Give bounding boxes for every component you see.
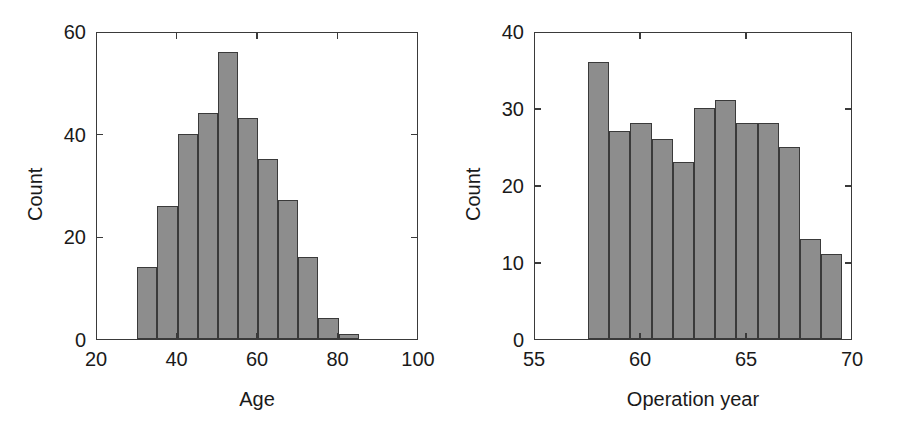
age-plot-area — [96, 32, 418, 340]
histogram-bar — [758, 123, 779, 339]
y-tick-mark — [534, 108, 541, 109]
age-bars — [97, 33, 417, 339]
histogram-bar — [779, 147, 800, 340]
y-tick-mark-right — [411, 134, 418, 135]
histogram-figure: 0204060 20406080100 Age Count 010203040 … — [0, 0, 898, 426]
histogram-bar — [630, 123, 651, 339]
x-tick-label: 60 — [246, 348, 268, 371]
x-tick-mark-top — [745, 32, 746, 39]
x-tick-label: 40 — [165, 348, 187, 371]
x-tick-label: 100 — [401, 348, 434, 371]
y-tick-mark — [96, 134, 103, 135]
histogram-bar — [736, 123, 757, 339]
age-y-axis-title: Count — [24, 168, 47, 221]
histogram-bar — [588, 62, 609, 339]
histogram-bar — [157, 206, 177, 339]
x-tick-mark-top — [256, 32, 257, 39]
operation-year-x-axis-title: Operation year — [534, 388, 852, 411]
histogram-bar — [609, 131, 630, 339]
y-tick-label: 30 — [474, 98, 524, 121]
histogram-bar — [298, 257, 318, 339]
x-tick-label: 70 — [841, 348, 863, 371]
x-tick-mark-top — [337, 32, 338, 39]
y-tick-label: 60 — [36, 21, 86, 44]
y-tick-label: 0 — [36, 329, 86, 352]
histogram-bar — [715, 100, 736, 339]
x-tick-label: 60 — [629, 348, 651, 371]
histogram-bar — [178, 134, 198, 339]
y-tick-label: 0 — [474, 329, 524, 352]
histogram-bar — [198, 113, 218, 339]
x-tick-mark — [256, 333, 257, 340]
y-tick-mark-right — [411, 237, 418, 238]
x-tick-mark — [176, 333, 177, 340]
histogram-bar — [218, 52, 238, 339]
x-tick-label: 65 — [735, 348, 757, 371]
x-tick-mark-top — [176, 32, 177, 39]
x-tick-mark-top — [639, 32, 640, 39]
y-tick-mark-right — [845, 185, 852, 186]
y-tick-mark-right — [845, 262, 852, 263]
histogram-bar — [821, 254, 842, 339]
y-tick-label: 10 — [474, 252, 524, 275]
operation-year-plot-area — [534, 32, 852, 340]
age-histogram-panel: 0204060 20406080100 Age Count — [0, 0, 449, 426]
y-tick-label: 20 — [36, 226, 86, 249]
histogram-bar — [673, 162, 694, 339]
x-tick-mark — [337, 333, 338, 340]
histogram-bar — [694, 108, 715, 339]
age-x-axis-title: Age — [96, 388, 418, 411]
histogram-bar — [652, 139, 673, 339]
y-tick-mark — [534, 185, 541, 186]
y-tick-mark — [96, 237, 103, 238]
histogram-bar — [137, 267, 157, 339]
x-tick-label: 80 — [326, 348, 348, 371]
operation-year-y-axis-title: Count — [462, 168, 485, 221]
histogram-bar — [339, 334, 359, 339]
histogram-bar — [800, 239, 821, 339]
y-tick-label: 40 — [36, 123, 86, 146]
y-tick-mark-right — [845, 108, 852, 109]
x-tick-mark — [745, 333, 746, 340]
operation-year-bars — [535, 33, 851, 339]
histogram-bar — [238, 118, 258, 339]
histogram-bar — [318, 318, 338, 339]
y-tick-mark — [534, 262, 541, 263]
x-tick-label: 20 — [85, 348, 107, 371]
histogram-bar — [278, 200, 298, 339]
y-tick-label: 40 — [474, 21, 524, 44]
operation-year-histogram-panel: 010203040 55606570 Operation year Count — [449, 0, 898, 426]
x-tick-mark — [639, 333, 640, 340]
x-tick-label: 55 — [523, 348, 545, 371]
histogram-bar — [258, 159, 278, 339]
